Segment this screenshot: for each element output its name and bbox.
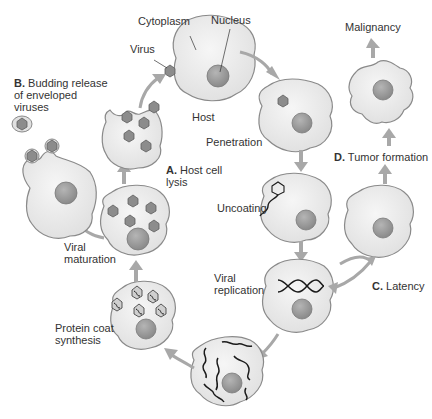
protein-coat-cell bbox=[111, 281, 176, 349]
label-line: Latency bbox=[383, 280, 425, 292]
label-line: maturation bbox=[64, 253, 116, 265]
label-line: Host cell bbox=[177, 164, 222, 176]
uncoating-cell bbox=[260, 173, 331, 242]
attached-virus-icon bbox=[165, 65, 175, 77]
label-line: Tumor formation bbox=[345, 151, 428, 163]
label-line: Viral bbox=[214, 272, 264, 284]
label-virus: Virus bbox=[130, 43, 155, 55]
label-letter: C. bbox=[372, 280, 383, 292]
arrowhead-icon bbox=[378, 164, 392, 174]
penetration-cell bbox=[259, 79, 332, 152]
lysis-cell bbox=[102, 101, 162, 169]
arrowhead-icon bbox=[382, 128, 396, 138]
label-penetration: Penetration bbox=[206, 136, 262, 148]
label-budding-release: B. Budding release of enveloped viruses bbox=[14, 77, 108, 113]
host-nucleus bbox=[207, 65, 229, 87]
label-viral-replication: Viral replication bbox=[214, 272, 264, 296]
latency-cell bbox=[345, 185, 414, 257]
mrna-cell bbox=[191, 337, 264, 406]
label-letter: D. bbox=[334, 151, 345, 163]
label-viral-maturation: Viral maturation bbox=[64, 241, 116, 265]
arrowhead-icon bbox=[129, 260, 143, 270]
label-protein-coat-synthesis: Protein coat synthesis bbox=[55, 322, 114, 346]
label-nucleus: Nucleus bbox=[211, 14, 251, 26]
label-line: lysis bbox=[166, 176, 222, 188]
label-latency: C. Latency bbox=[372, 280, 425, 292]
label-malignancy: Malignancy bbox=[345, 21, 401, 33]
label-host: Host bbox=[192, 111, 215, 123]
label-line: replication bbox=[214, 284, 264, 296]
label-host-cell-lysis: A. Host cell lysis bbox=[166, 164, 222, 188]
label-line: Protein coat bbox=[55, 322, 114, 334]
label-letter: B. bbox=[14, 77, 25, 89]
label-line: Viral bbox=[64, 241, 116, 253]
arrowhead-icon bbox=[366, 38, 380, 48]
label-line: of enveloped bbox=[14, 89, 108, 101]
label-letter: A. bbox=[166, 164, 177, 176]
tumor-cell bbox=[349, 61, 413, 124]
label-uncoating: Uncoating bbox=[217, 202, 267, 214]
budding-cell bbox=[23, 139, 96, 238]
arrowhead-icon bbox=[294, 162, 308, 172]
replication-cell bbox=[263, 259, 334, 332]
released-virus bbox=[12, 116, 32, 132]
label-line: viruses bbox=[14, 101, 108, 113]
label-tumor-formation: D. Tumor formation bbox=[334, 151, 428, 163]
label-cytoplasm: Cytoplasm bbox=[138, 15, 190, 27]
label-line: synthesis bbox=[55, 334, 114, 346]
host-cell bbox=[154, 15, 255, 101]
viral-lifecycle-diagram bbox=[0, 0, 432, 419]
label-line: Budding release bbox=[25, 77, 108, 89]
